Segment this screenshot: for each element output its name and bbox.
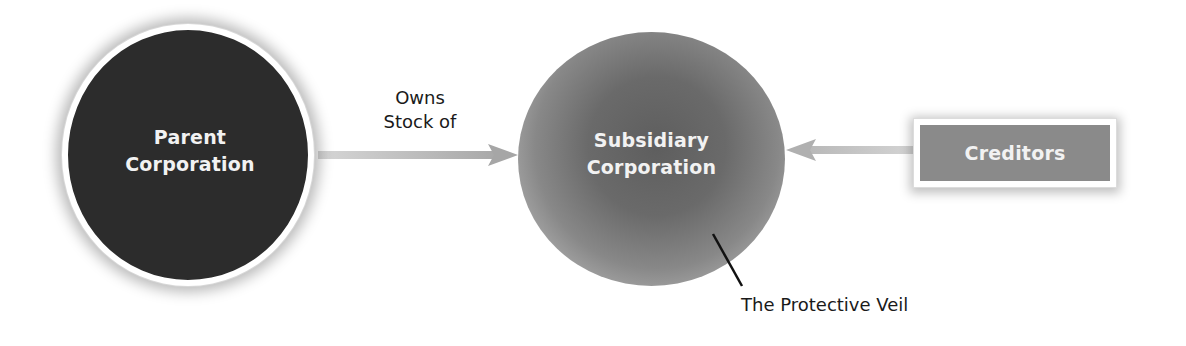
owns-label-line2: Stock of [370, 110, 470, 134]
creditors-node: Creditors [913, 118, 1117, 188]
parent-label-line2: Corporation [125, 151, 255, 178]
owns-stock-label: Owns Stock of [370, 86, 470, 134]
owns-stock-arrow-icon [318, 140, 523, 170]
owns-label-line1: Owns [370, 86, 470, 110]
protective-veil-label: The Protective Veil [741, 294, 908, 315]
subsidiary-label-line1: Subsidiary [587, 127, 717, 154]
parent-label-line1: Parent [125, 124, 255, 151]
parent-corporation-node: Parent Corporation [62, 24, 314, 286]
subsidiary-corporation-label: Subsidiary Corporation [587, 127, 717, 181]
creditors-label: Creditors [965, 142, 1066, 164]
creditors-arrow-icon [784, 136, 916, 164]
parent-corporation-label: Parent Corporation [125, 124, 255, 178]
corporate-veil-diagram: Parent Corporation Owns Stock of Subsidi… [0, 0, 1186, 346]
subsidiary-corporation-node: Subsidiary Corporation [518, 32, 785, 286]
creditors-box: Creditors [920, 125, 1110, 181]
subsidiary-label-line2: Corporation [587, 154, 717, 181]
